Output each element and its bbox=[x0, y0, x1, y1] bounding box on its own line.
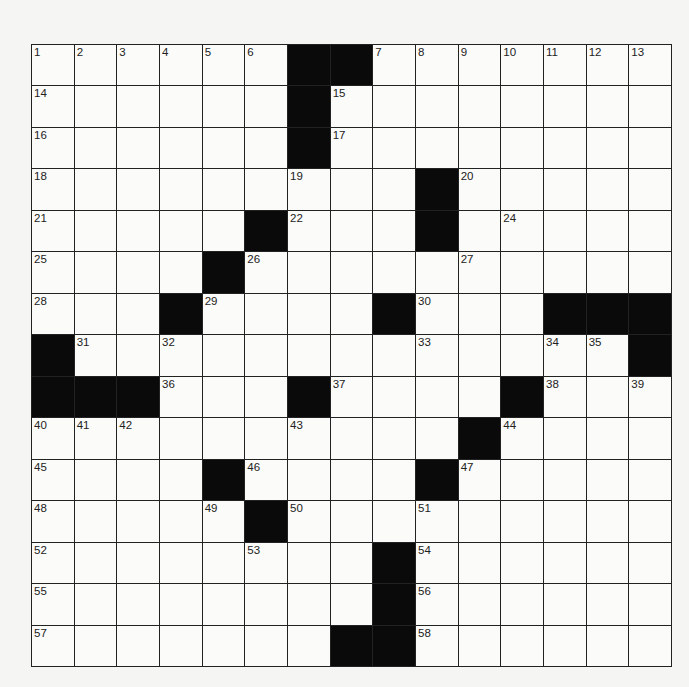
grid-cell[interactable] bbox=[75, 252, 117, 292]
grid-cell[interactable] bbox=[75, 584, 117, 624]
grid-cell[interactable] bbox=[117, 335, 159, 375]
grid-cell[interactable] bbox=[587, 543, 629, 583]
grid-cell[interactable] bbox=[416, 418, 458, 458]
grid-cell[interactable] bbox=[288, 460, 330, 500]
grid-cell[interactable] bbox=[160, 86, 202, 126]
grid-cell[interactable] bbox=[459, 128, 501, 168]
grid-cell[interactable]: 9 bbox=[459, 45, 501, 85]
grid-cell[interactable]: 53 bbox=[245, 543, 287, 583]
grid-cell[interactable] bbox=[587, 418, 629, 458]
grid-cell[interactable] bbox=[587, 377, 629, 417]
grid-cell[interactable] bbox=[288, 626, 330, 666]
grid-cell[interactable] bbox=[587, 86, 629, 126]
grid-cell[interactable] bbox=[373, 335, 415, 375]
grid-cell[interactable]: 42 bbox=[117, 418, 159, 458]
grid-cell[interactable] bbox=[629, 460, 671, 500]
grid-cell[interactable] bbox=[160, 626, 202, 666]
grid-cell[interactable] bbox=[331, 584, 373, 624]
grid-cell[interactable] bbox=[459, 335, 501, 375]
grid-cell[interactable]: 13 bbox=[629, 45, 671, 85]
grid-cell[interactable] bbox=[160, 169, 202, 209]
grid-cell[interactable] bbox=[416, 252, 458, 292]
grid-cell[interactable]: 44 bbox=[501, 418, 543, 458]
grid-cell[interactable] bbox=[373, 501, 415, 541]
grid-cell[interactable]: 45 bbox=[32, 460, 74, 500]
grid-cell[interactable] bbox=[373, 377, 415, 417]
grid-cell[interactable] bbox=[459, 626, 501, 666]
grid-cell[interactable]: 3 bbox=[117, 45, 159, 85]
grid-cell[interactable] bbox=[544, 211, 586, 251]
grid-cell[interactable]: 14 bbox=[32, 86, 74, 126]
grid-cell[interactable] bbox=[117, 626, 159, 666]
grid-cell[interactable] bbox=[117, 86, 159, 126]
grid-cell[interactable] bbox=[501, 543, 543, 583]
grid-cell[interactable] bbox=[501, 169, 543, 209]
grid-cell[interactable] bbox=[245, 584, 287, 624]
grid-cell[interactable] bbox=[203, 626, 245, 666]
grid-cell[interactable]: 50 bbox=[288, 501, 330, 541]
grid-cell[interactable] bbox=[203, 335, 245, 375]
grid-cell[interactable] bbox=[331, 252, 373, 292]
grid-cell[interactable] bbox=[331, 418, 373, 458]
grid-cell[interactable] bbox=[544, 460, 586, 500]
grid-cell[interactable]: 51 bbox=[416, 501, 458, 541]
grid-cell[interactable]: 43 bbox=[288, 418, 330, 458]
grid-cell[interactable]: 17 bbox=[331, 128, 373, 168]
grid-cell[interactable] bbox=[117, 543, 159, 583]
grid-cell[interactable] bbox=[501, 335, 543, 375]
grid-cell[interactable] bbox=[203, 169, 245, 209]
grid-cell[interactable] bbox=[373, 128, 415, 168]
grid-cell[interactable] bbox=[629, 501, 671, 541]
grid-cell[interactable] bbox=[245, 626, 287, 666]
grid-cell[interactable]: 47 bbox=[459, 460, 501, 500]
grid-cell[interactable]: 37 bbox=[331, 377, 373, 417]
grid-cell[interactable]: 27 bbox=[459, 252, 501, 292]
grid-cell[interactable]: 31 bbox=[75, 335, 117, 375]
grid-cell[interactable] bbox=[331, 211, 373, 251]
grid-cell[interactable]: 25 bbox=[32, 252, 74, 292]
grid-cell[interactable]: 29 bbox=[203, 294, 245, 334]
grid-cell[interactable] bbox=[331, 543, 373, 583]
grid-cell[interactable]: 2 bbox=[75, 45, 117, 85]
grid-cell[interactable]: 20 bbox=[459, 169, 501, 209]
grid-cell[interactable] bbox=[75, 501, 117, 541]
grid-cell[interactable] bbox=[459, 543, 501, 583]
grid-cell[interactable] bbox=[331, 501, 373, 541]
grid-cell[interactable] bbox=[544, 584, 586, 624]
grid-cell[interactable] bbox=[160, 418, 202, 458]
grid-cell[interactable]: 55 bbox=[32, 584, 74, 624]
grid-cell[interactable] bbox=[501, 294, 543, 334]
grid-cell[interactable]: 4 bbox=[160, 45, 202, 85]
grid-cell[interactable] bbox=[587, 584, 629, 624]
grid-cell[interactable]: 56 bbox=[416, 584, 458, 624]
grid-cell[interactable] bbox=[459, 211, 501, 251]
grid-cell[interactable] bbox=[117, 211, 159, 251]
grid-cell[interactable]: 21 bbox=[32, 211, 74, 251]
grid-cell[interactable] bbox=[501, 460, 543, 500]
grid-cell[interactable] bbox=[587, 626, 629, 666]
grid-cell[interactable] bbox=[75, 626, 117, 666]
grid-cell[interactable]: 24 bbox=[501, 211, 543, 251]
grid-cell[interactable]: 6 bbox=[245, 45, 287, 85]
grid-cell[interactable]: 22 bbox=[288, 211, 330, 251]
grid-cell[interactable]: 19 bbox=[288, 169, 330, 209]
grid-cell[interactable] bbox=[629, 211, 671, 251]
grid-cell[interactable] bbox=[416, 128, 458, 168]
grid-cell[interactable] bbox=[629, 252, 671, 292]
grid-cell[interactable]: 26 bbox=[245, 252, 287, 292]
grid-cell[interactable] bbox=[501, 501, 543, 541]
grid-cell[interactable] bbox=[75, 169, 117, 209]
grid-cell[interactable]: 8 bbox=[416, 45, 458, 85]
grid-cell[interactable] bbox=[416, 86, 458, 126]
grid-cell[interactable] bbox=[629, 128, 671, 168]
grid-cell[interactable] bbox=[373, 169, 415, 209]
grid-cell[interactable]: 33 bbox=[416, 335, 458, 375]
grid-cell[interactable] bbox=[544, 86, 586, 126]
grid-cell[interactable] bbox=[373, 86, 415, 126]
grid-cell[interactable] bbox=[629, 169, 671, 209]
grid-cell[interactable] bbox=[501, 86, 543, 126]
grid-cell[interactable] bbox=[544, 543, 586, 583]
grid-cell[interactable]: 30 bbox=[416, 294, 458, 334]
grid-cell[interactable]: 12 bbox=[587, 45, 629, 85]
grid-cell[interactable] bbox=[288, 584, 330, 624]
